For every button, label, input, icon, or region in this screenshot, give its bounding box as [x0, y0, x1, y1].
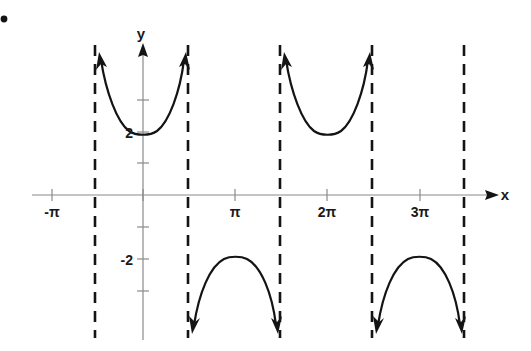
curve-lower-branch-2	[378, 257, 460, 325]
x-tick-label-3pi: 3π	[411, 204, 430, 220]
y-axis-group	[137, 43, 149, 340]
y-tick-label-neg-2: -2	[121, 252, 134, 268]
secant-graph-figure: x y -π π 2π 3π 2 -2	[0, 0, 531, 351]
curve-branches-group	[96, 52, 466, 334]
x-tick-label-pi: π	[230, 204, 241, 220]
asymptotes-group	[95, 45, 464, 338]
curve-lower-branch-1	[194, 257, 276, 325]
x-axis-label: x	[501, 186, 510, 203]
labels-group: x y -π π 2π 3π 2 -2	[44, 25, 510, 268]
x-tick-label-2pi: 2π	[318, 204, 337, 220]
y-axis-arrowhead	[138, 43, 148, 57]
plot-canvas: x y -π π 2π 3π 2 -2	[0, 0, 531, 351]
corner-dot-mark	[1, 16, 8, 23]
x-axis-group	[32, 189, 499, 201]
curve-upper-branch-2	[286, 60, 368, 135]
y-tick-label-2: 2	[125, 125, 133, 141]
y-axis-label: y	[137, 25, 146, 42]
x-tick-label-neg-pi: -π	[44, 204, 60, 220]
x-axis-arrowhead	[485, 190, 499, 200]
